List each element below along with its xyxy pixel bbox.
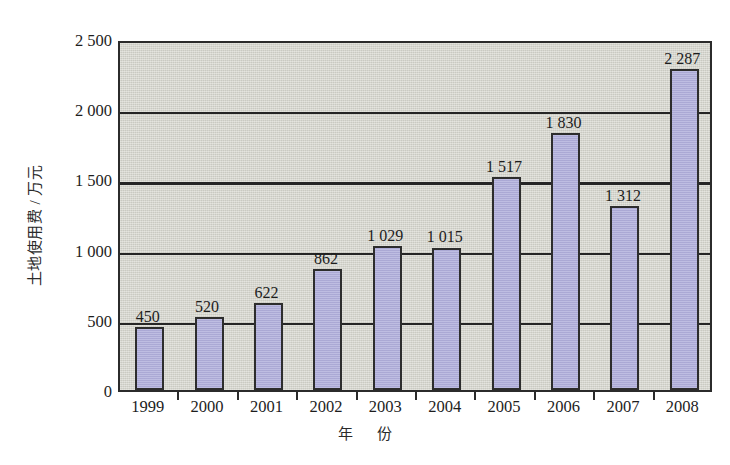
bar (670, 69, 699, 390)
bar (195, 317, 224, 390)
x-axis-tick-label: 2001 (250, 399, 283, 416)
x-axis-tick-label: 2007 (606, 399, 639, 416)
y-axis-tick-label: 0 (40, 384, 112, 401)
x-axis-tick-label: 2002 (309, 399, 342, 416)
bar (135, 327, 164, 390)
x-axis-title: 年 份 (0, 422, 730, 443)
bar-value-label: 862 (314, 251, 338, 267)
gridline (120, 182, 710, 184)
bar-value-label: 1 830 (546, 115, 582, 131)
x-axis-tick-label: 2003 (369, 399, 402, 416)
bar-value-label: 450 (136, 309, 160, 325)
bar (610, 206, 639, 390)
bar-value-label: 1 029 (367, 228, 403, 244)
x-axis-tick (296, 392, 298, 400)
x-axis-tick (237, 392, 239, 400)
bar-value-label: 2 287 (664, 51, 700, 67)
y-axis-tick-label: 2 000 (40, 103, 112, 120)
bar-value-label: 1 517 (486, 159, 522, 175)
x-axis-tick-label: 2000 (191, 399, 224, 416)
bar (254, 303, 283, 390)
bar (551, 133, 580, 390)
bar (373, 246, 402, 390)
bar (432, 248, 461, 391)
x-axis-tick (593, 392, 595, 400)
y-axis-tick-label: 1 000 (40, 243, 112, 260)
gridline (120, 112, 710, 114)
x-axis-tick-label: 1999 (131, 399, 164, 416)
x-axis-tick (474, 392, 476, 400)
x-axis-tick-label: 2005 (488, 399, 521, 416)
bar-value-label: 520 (195, 299, 219, 315)
bar-chart-figure: 土地使用费 / 万元 05001 0001 5002 0002 500 4505… (0, 0, 730, 465)
y-axis-tick-label: 1 500 (40, 173, 112, 190)
x-axis-tick (177, 392, 179, 400)
y-axis-tick-label: 500 (40, 314, 112, 331)
plot-area (118, 41, 712, 392)
x-axis-tick (356, 392, 358, 400)
y-axis-tick-label: 2 500 (40, 33, 112, 50)
y-axis-tick-label-group: 05001 0001 5002 0002 500 (40, 0, 112, 465)
bar (492, 177, 521, 390)
x-axis-tick-label: 2006 (547, 399, 580, 416)
x-axis-tick (534, 392, 536, 400)
x-axis-tick (653, 392, 655, 400)
bar-value-label: 622 (255, 285, 279, 301)
bar-value-label: 1 312 (605, 188, 641, 204)
x-axis-tick (415, 392, 417, 400)
x-axis-tick-label: 2008 (666, 399, 699, 416)
bar-value-label: 1 015 (427, 229, 463, 245)
x-axis-tick-label: 2004 (428, 399, 461, 416)
bar (313, 269, 342, 390)
